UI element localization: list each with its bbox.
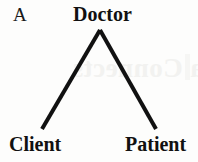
node-label-client: Client [9,134,61,154]
node-label-doctor: Doctor [73,4,132,24]
figure-container: a Connects A Doctor Client Patient [0,0,198,162]
panel-letter-label: A [13,5,27,24]
edge-doctor-client [42,30,100,129]
edge-doctor-patient [100,30,156,129]
node-label-patient: Patient [125,134,186,154]
